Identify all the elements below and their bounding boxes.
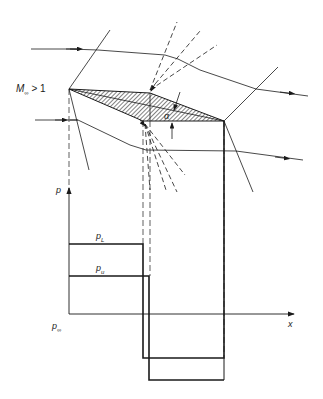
alpha-label: α [164,112,169,121]
lower-expansion-fan [145,124,185,192]
projection-lines [69,89,224,358]
p-upper-subscript: u [101,269,104,275]
leading-edge-shock-upper [69,30,110,89]
p-lower-distribution [69,121,224,358]
mach-subscript: ∞ [24,90,28,96]
leading-edge-shock-lower [69,89,89,170]
mach-label: M∞ > 1 [16,84,46,96]
p-upper-label: pu [96,264,104,275]
mach-condition: > 1 [31,83,45,94]
p-inf-label: p∞ [52,322,61,333]
trailing-edge-shock-lower [224,121,253,192]
diamond-airfoil-diagram: M∞ > 1 α p x pL pu p∞ [0,0,323,399]
x-axis-label: x [288,320,293,329]
p-lower-label: pL [96,232,104,243]
p-upper-distribution [69,276,224,380]
p-inf-subscript: ∞ [57,327,61,333]
lower-streamline [35,120,303,160]
upper-expansion-fan [150,22,217,90]
diagram-svg [0,0,323,399]
trailing-edge-shock-upper [224,67,278,121]
p-lower-subscript: L [101,237,104,243]
p-axis-label: p [56,186,61,195]
